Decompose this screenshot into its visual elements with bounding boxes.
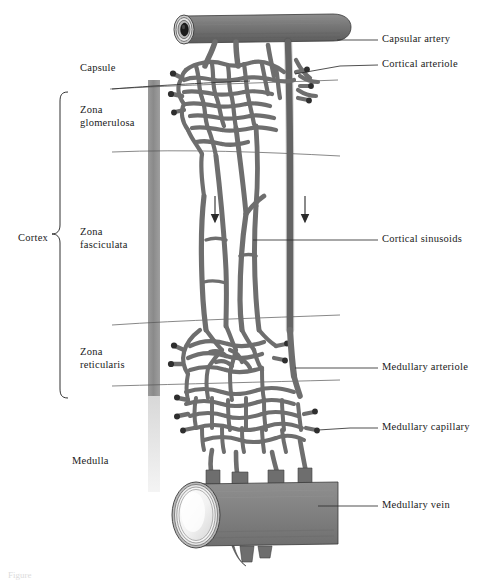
cortical-arteriole-short [268,45,274,76]
label-zona-glomerulosa: Zona glomerulosa [80,103,160,130]
vein-tributaries-bottom [232,546,272,566]
capsular-artery-group [174,14,351,44]
label-capsular-artery: Capsular artery [382,33,450,44]
medullary-vein-lumen-highlight [181,492,205,532]
sinusoid-middle-lower [240,214,246,330]
label-zona-reticularis-line1: Zona [80,346,103,357]
figure-page: Capsule Zona glomerulosa Zona fasciculat… [0,0,487,584]
medullary-arteriole-group [290,330,300,396]
label-medullary-capillary: Medullary capillary [382,421,470,432]
medullary-vein-group [172,468,338,566]
label-zona-reticularis: Zona reticularis [80,345,160,372]
leader-medullary-capillary [318,428,378,430]
sinusoid-right-upper [256,126,258,206]
cortex-brace [52,92,68,398]
label-capsule: Capsule [80,62,116,73]
figure-caption-partial: Figure [8,570,32,580]
glomerulosa-plexus [172,60,318,196]
label-cortical-sinusoids: Cortical sinusoids [382,233,462,244]
capsular-artery-lumen-highlight [182,25,185,29]
label-zona-glomerulosa-line2: glomerulosa [80,117,135,128]
label-zona-reticularis-line2: reticularis [80,359,125,370]
label-zona-fasciculata: Zona fasciculata [80,225,160,252]
flow-arrow-right-icon [302,196,309,222]
capsular-artery-lumen [181,23,189,36]
capsular-artery-body [184,14,351,43]
sinusoid-right-lower [255,206,260,330]
capsule-band-group [148,80,160,492]
label-cortical-arteriole: Cortical arteriole [382,58,458,69]
flow-arrow-left-icon [212,196,219,222]
reticularis-plexus-upper [172,326,286,374]
label-medullary-vein: Medullary vein [382,499,450,510]
arteriole-branch-center [236,42,238,66]
leader-lines-right [253,40,378,506]
label-cortex: Cortex [18,232,48,243]
label-zona-glomerulosa-line1: Zona [80,104,103,115]
label-zona-fasciculata-line2: fasciculata [80,239,128,250]
label-zona-fasciculata-line1: Zona [80,226,103,237]
boundary-glomerulosa-fasciculata [112,151,340,156]
adrenal-blood-supply-figure [0,0,487,584]
label-medullary-arteriole: Medullary arteriole [382,361,468,372]
medullary-arteriole [290,330,294,376]
label-medulla: Medulla [72,455,109,466]
capsule-band-fade [148,396,160,492]
sinusoid-left [201,196,206,330]
boundary-reticularis-medulla [112,380,340,386]
cortical-sinusoids-group [201,126,264,330]
